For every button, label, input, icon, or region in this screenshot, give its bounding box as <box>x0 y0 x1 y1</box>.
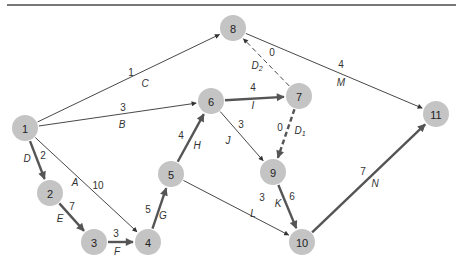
edge-duration-1-6: 3 <box>120 102 126 113</box>
node-3: 3 <box>81 229 107 255</box>
edge-activity-1-4: A <box>71 177 79 188</box>
activity-letter: N <box>371 178 379 189</box>
node-9: 9 <box>260 159 286 185</box>
edge-duration-1-2: 2 <box>40 150 46 161</box>
node-1: 1 <box>12 115 38 141</box>
edge-duration-8-11: 4 <box>338 59 344 70</box>
activity-letter: E <box>57 213 64 224</box>
edge-duration-9-10: 6 <box>289 191 295 202</box>
edge-1-8 <box>38 34 220 121</box>
activity-letter: K <box>275 198 283 209</box>
node-label: 9 <box>270 167 276 179</box>
node-5: 5 <box>158 161 184 187</box>
nodes-layer: 1234567891011 <box>12 15 449 255</box>
edge-duration-2-3: 7 <box>69 201 75 212</box>
node-10: 10 <box>289 229 315 255</box>
activity-letter: D <box>23 153 30 164</box>
activity-letter: M <box>337 77 346 88</box>
node-label: 4 <box>145 237 151 249</box>
node-label: 7 <box>296 91 302 103</box>
edge-duration-10-11: 7 <box>360 166 366 177</box>
activity-letter: L <box>250 208 256 219</box>
edge-activity-5-6: H <box>193 140 201 151</box>
edge-activity-4-5: G <box>159 210 167 221</box>
activity-letter: D <box>294 125 301 136</box>
edge-activity-1-8: C <box>141 78 149 89</box>
edge-7-8 <box>243 39 289 86</box>
edge-activity-6-7: I <box>252 100 255 111</box>
project-network-diagram: 1C3B2D10A7E3F5G4H3L4I3J0D20D14M6K7N 1234… <box>0 0 466 270</box>
activity-letter: H <box>193 140 201 151</box>
node-label: 5 <box>168 169 174 181</box>
node-2: 2 <box>37 180 63 206</box>
activity-letter: G <box>159 210 167 221</box>
edge-activity-9-10: K <box>275 198 283 209</box>
edge-duration-7-8: 0 <box>269 47 275 58</box>
activity-subscript: 1 <box>302 130 306 137</box>
edge-duration-6-7: 4 <box>250 82 256 93</box>
node-label: 2 <box>47 188 53 200</box>
activity-letter: D <box>251 60 258 71</box>
edge-6-7 <box>225 97 284 100</box>
node-11: 11 <box>423 101 449 127</box>
edge-activity-6-9: J <box>225 135 232 146</box>
edge-10-11 <box>312 124 425 232</box>
activity-letter: I <box>252 100 255 111</box>
edge-activity-1-2: D <box>23 153 30 164</box>
edge-activity-7-9: D1 <box>294 125 305 137</box>
edge-activity-5-10: L <box>250 208 256 219</box>
activity-letter: J <box>225 135 232 146</box>
edge-7-9 <box>278 109 295 158</box>
edge-5-10 <box>183 180 288 235</box>
node-label: 3 <box>91 237 97 249</box>
node-label: 1 <box>22 123 28 135</box>
edge-activity-3-4: F <box>114 246 121 257</box>
node-label: 6 <box>208 96 214 108</box>
edge-activity-1-6: B <box>119 119 126 130</box>
edge-duration-6-9: 3 <box>238 119 244 130</box>
activity-letter: B <box>119 119 126 130</box>
edge-duration-3-4: 3 <box>113 228 119 239</box>
edge-activity-2-3: E <box>57 213 64 224</box>
activity-letter: F <box>114 246 121 257</box>
node-label: 10 <box>296 237 308 249</box>
node-label: 8 <box>230 23 236 35</box>
edge-duration-7-9: 0 <box>277 122 283 133</box>
edge-duration-1-8: 1 <box>128 67 134 78</box>
edge-activity-10-11: N <box>371 178 379 189</box>
node-label: 11 <box>430 109 441 121</box>
edge-duration-4-5: 5 <box>145 204 151 215</box>
edge-activity-8-11: M <box>337 77 346 88</box>
edge-activity-7-8: D2 <box>251 60 262 72</box>
edge-labels-layer: 1C3B2D10A7E3F5G4H3L4I3J0D20D14M6K7N <box>23 47 379 257</box>
node-4: 4 <box>135 229 161 255</box>
edge-4-5 <box>152 188 166 229</box>
activity-letter: A <box>71 177 79 188</box>
node-8: 8 <box>220 15 246 41</box>
node-7: 7 <box>286 83 312 109</box>
activity-subscript: 2 <box>258 65 263 72</box>
activity-letter: C <box>141 78 149 89</box>
edge-duration-5-10: 3 <box>259 192 265 203</box>
edge-1-6 <box>39 103 196 126</box>
edge-duration-5-6: 4 <box>178 130 184 141</box>
node-6: 6 <box>198 88 224 114</box>
edge-duration-1-4: 10 <box>92 180 104 191</box>
